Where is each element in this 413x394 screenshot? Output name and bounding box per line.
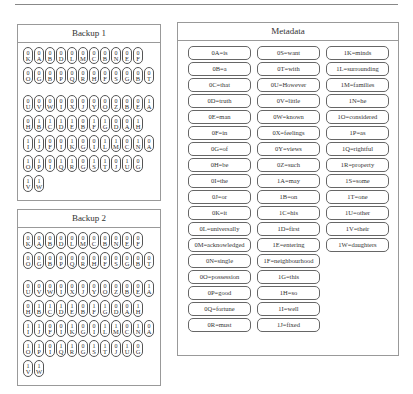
backup-1-panel: Backup 1 0K0A0B0D0L0M0C0B0N0E0F0O0G0B0P0…: [17, 24, 161, 201]
metadata-entry: 1E=entering: [257, 238, 320, 252]
tile: 0W: [45, 95, 55, 112]
tile-letter: I: [27, 144, 29, 150]
tile: 1O: [23, 340, 33, 357]
tile-letter: T: [103, 164, 107, 170]
tile-letter: A: [37, 56, 42, 62]
tile-letter: C: [48, 124, 52, 130]
tile: 0F: [45, 135, 55, 152]
tile: 0G: [122, 67, 132, 84]
tile-row: 0O0G0B0P0Q0R0H0F0S0G0B0T: [23, 67, 160, 85]
tile: 1O: [23, 155, 33, 172]
metadata-entry: 0T=with: [257, 62, 320, 76]
tile: 0B: [78, 115, 88, 132]
tile: 0C: [122, 135, 132, 152]
metadata-entry: 0G=of: [188, 142, 251, 156]
metadata-title: Metadata: [178, 23, 398, 41]
tile-letter: B: [136, 76, 140, 82]
tile-letter: G: [81, 164, 86, 170]
tile: 1M: [111, 135, 121, 152]
tile: 0K: [23, 47, 33, 64]
tile: 0A: [144, 320, 154, 337]
tile-letter: Q: [70, 76, 75, 82]
tile: 0B: [122, 95, 132, 112]
metadata-panel: Metadata 0A=is0B=a0C=that0D=truth0E=man0…: [177, 22, 399, 356]
tile: 1S: [89, 340, 99, 357]
tile-letter: K: [26, 56, 31, 62]
tile-letter: W: [36, 369, 42, 375]
tile: 0C: [122, 320, 132, 337]
tile-letter: O: [26, 261, 31, 267]
metadata-entry: 1P=as: [326, 126, 389, 140]
tile: 0I: [45, 155, 55, 172]
tile: 0R: [78, 252, 88, 269]
tile: 0Z: [111, 95, 121, 112]
metadata-entry: 1D=first: [257, 222, 320, 236]
tile-letter: S: [114, 261, 118, 267]
tile: 1S: [89, 155, 99, 172]
tile: 0H: [23, 300, 33, 317]
tile: 0G: [34, 67, 44, 84]
tile: 0I: [89, 135, 99, 152]
tile-row: 0O0G0B0P0Q0R0H0F0S0G0B0T: [23, 252, 160, 270]
tile-letter: S: [92, 164, 96, 170]
tile-letter: I: [60, 329, 62, 335]
tile: 0A: [122, 115, 132, 132]
tile: 0Y: [89, 280, 99, 297]
tile-letter: B: [125, 104, 129, 110]
metadata-entry: 0P=good: [188, 286, 251, 300]
metadata-entry: 0R=must: [188, 318, 251, 332]
tile: 1Q: [56, 340, 66, 357]
tile: 0X: [67, 95, 77, 112]
tile: 0R: [78, 67, 88, 84]
tile: 1K: [67, 320, 77, 337]
metadata-entry: 1K=minds: [326, 46, 389, 60]
tile-letter: B: [81, 309, 85, 315]
tile-letter: P: [37, 349, 41, 355]
tile: 0B: [45, 252, 55, 269]
metadata-entry: 1V=their: [326, 222, 389, 236]
tile-letter: H: [136, 124, 141, 130]
tile-letter: F: [136, 56, 140, 62]
tile: 0E: [122, 232, 132, 249]
tile-letter: B: [37, 309, 41, 315]
top-divider: [15, 4, 398, 5]
tile-letter: G: [136, 349, 141, 355]
tile-letter: D: [59, 241, 64, 247]
metadata-entry: 0N=single: [188, 254, 251, 268]
tile-letter: H: [136, 309, 141, 315]
tile-letter: C: [48, 309, 52, 315]
tile: 0X: [67, 280, 77, 297]
metadata-entry: 0Y=views: [257, 142, 320, 156]
tile: 0E: [133, 95, 143, 112]
tile: 0W: [45, 280, 55, 297]
tile-letter: G: [81, 349, 86, 355]
tile-letter: S: [92, 349, 96, 355]
tile: 0G: [133, 340, 143, 357]
tile-letter: K: [70, 144, 75, 150]
tile: 0H: [23, 115, 33, 132]
tile-letter: C: [92, 56, 96, 62]
metadata-entry: 1R=property: [326, 158, 389, 172]
tile: 0M: [78, 47, 88, 64]
tile: 0Y: [89, 95, 99, 112]
tile: 1V: [23, 175, 33, 192]
tile: 0P: [56, 252, 66, 269]
tile: 0I: [45, 340, 55, 357]
tile: 0D: [111, 115, 121, 132]
tile-letter: J: [38, 329, 41, 335]
metadata-entry: 0L=universally: [188, 222, 251, 236]
tile: 1G: [100, 115, 110, 132]
tile: 0D: [56, 47, 66, 64]
metadata-columns: 0A=is0B=a0C=that0D=truth0E=man0F=in0G=of…: [178, 41, 398, 334]
tile: 1J: [34, 320, 44, 337]
tile: 0A: [122, 300, 132, 317]
tile-letter: V: [26, 369, 31, 375]
metadata-entry: 0H=be: [188, 158, 251, 172]
tile-letter: W: [47, 289, 53, 295]
tile-letter: G: [125, 261, 130, 267]
tile: 1P: [34, 155, 44, 172]
tile-row: 1O1P0I1Q1R0G1S1T0J1U0G: [23, 340, 160, 358]
tile: 0N: [111, 47, 121, 64]
tile-letter: A: [37, 241, 42, 247]
metadata-entry: 0D=truth: [188, 94, 251, 108]
